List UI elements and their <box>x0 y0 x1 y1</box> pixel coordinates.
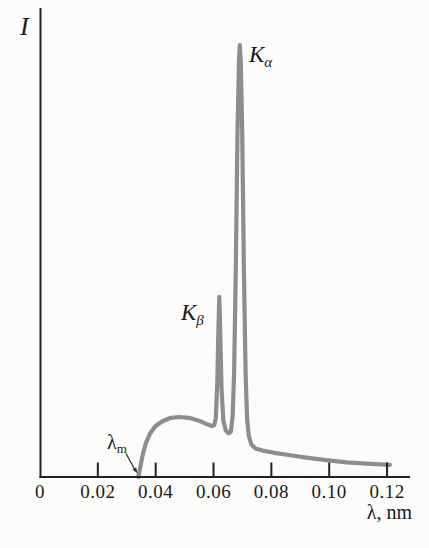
x-tick-label-3: 0.06 <box>196 482 231 501</box>
y-axis-label: I <box>20 14 29 40</box>
k-beta-symbol: K <box>181 300 196 325</box>
lambda-m-arrow <box>126 454 138 474</box>
x-tick-label-1: 0.02 <box>80 482 115 501</box>
spectrum-curve <box>138 45 390 477</box>
xray-spectrum-figure: I Kα Kβ λm 0 0.02 0.04 0.06 0.08 0.10 0.… <box>0 0 429 548</box>
spectrum-plot <box>0 0 429 548</box>
x-tick-label-2: 0.04 <box>138 482 173 501</box>
k-alpha-symbol: K <box>249 42 264 67</box>
k-alpha-subscript: α <box>264 54 272 70</box>
lambda-m-label: λm <box>107 432 127 452</box>
k-beta-peak-label: Kβ <box>181 301 204 324</box>
x-tick-label-6: 0.12 <box>369 482 404 501</box>
x-axis-label: λ, nm <box>0 502 412 522</box>
lambda-m-symbol: λ <box>107 431 117 453</box>
x-tick-label-0: 0 <box>35 482 45 501</box>
x-tick-label-5: 0.10 <box>312 482 347 501</box>
lambda-m-subscript: m <box>117 441 127 456</box>
k-alpha-peak-label: Kα <box>249 43 272 66</box>
x-tick-label-4: 0.08 <box>254 482 289 501</box>
k-beta-subscript: β <box>196 312 203 328</box>
